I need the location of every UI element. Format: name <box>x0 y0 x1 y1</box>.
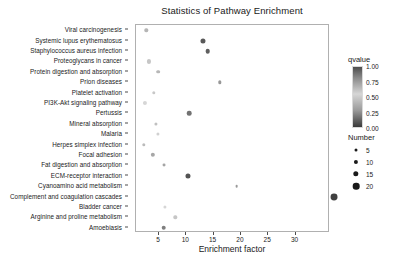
y-axis-tick-mark <box>125 91 128 92</box>
number-legend-dot <box>353 171 358 176</box>
number-legend-label: 20 <box>366 183 373 190</box>
number-legend-row: 15 <box>349 168 395 180</box>
data-point <box>145 28 148 31</box>
x-axis-tick-mark <box>185 232 186 235</box>
data-point <box>218 80 221 83</box>
y-axis-tick-label: Viral carcinogenesis <box>65 26 122 33</box>
y-axis-tick-label: Cyanoamino acid metabolism <box>38 182 122 189</box>
data-point <box>200 38 205 43</box>
number-legend-key <box>349 144 363 156</box>
y-axis-tick-mark <box>125 216 128 217</box>
data-point <box>185 173 190 178</box>
y-axis-tick-mark <box>125 81 128 82</box>
qvalue-colorbar <box>352 66 363 128</box>
x-axis-tick-label: 20 <box>236 236 243 243</box>
y-axis-tick-mark <box>125 29 128 30</box>
data-point <box>174 216 177 219</box>
number-legend-dot <box>354 160 358 164</box>
number-legend-title: Number <box>348 133 375 142</box>
x-axis-tick-mark <box>158 232 159 235</box>
y-axis-tick-mark <box>125 39 128 40</box>
y-axis-tick-mark <box>125 143 128 144</box>
y-axis-tick-mark <box>125 154 128 155</box>
y-axis-tick-label: ECM-receptor interaction <box>51 171 122 178</box>
y-axis-tick-label: Bladder cancer <box>79 203 122 210</box>
qvalue-legend-tick-label: 0.25 <box>366 109 379 116</box>
data-point <box>162 226 167 231</box>
x-axis-tick-label: 25 <box>264 236 271 243</box>
y-axis-tick-label: Protein digestion and absorption <box>30 67 122 74</box>
number-legend-key <box>349 168 363 180</box>
data-point <box>147 59 151 63</box>
y-axis-tick-label: Focal adhesion <box>79 151 122 158</box>
y-axis-tick-label: Malaria <box>101 130 122 137</box>
y-axis-tick-label: Herpes simplex infection <box>52 140 122 147</box>
qvalue-legend-tick-label: 0.75 <box>366 78 379 85</box>
chart-title: Statistics of Pathway Enrichment <box>135 5 329 16</box>
x-axis-title: Enrichment factor <box>135 244 329 254</box>
number-legend-key <box>349 156 363 168</box>
data-point <box>142 143 145 146</box>
number-legend-dot <box>353 183 360 190</box>
y-axis-tick-label: Pertussis <box>96 109 122 116</box>
number-legend-label: 5 <box>366 147 370 154</box>
data-point <box>235 185 238 188</box>
data-point <box>157 70 161 74</box>
number-legend-label: 10 <box>366 159 373 166</box>
x-axis-tick-mark <box>213 232 214 235</box>
number-legend-row: 5 <box>349 144 395 156</box>
number-legend-label: 15 <box>366 171 373 178</box>
qvalue-legend-tick-label: 0.00 <box>366 125 379 132</box>
y-axis-tick-label: Platelet activation <box>72 88 122 95</box>
qvalue-legend-tick-label: 1.00 <box>366 63 379 70</box>
y-axis-tick-mark <box>125 185 128 186</box>
y-axis-tick-label: PI3K-Akt signaling pathway <box>44 99 122 106</box>
y-axis: Viral carcinogenesisSystemic lupus eryth… <box>0 24 130 232</box>
y-axis-tick-mark <box>125 133 128 134</box>
data-point <box>187 111 192 116</box>
x-axis-tick-mark <box>295 232 296 235</box>
data-point <box>155 122 158 125</box>
number-legend-key <box>349 180 363 192</box>
y-axis-tick-label: Complement and coagulation cascades <box>10 192 122 199</box>
y-axis-tick-mark <box>125 164 128 165</box>
data-point <box>151 153 155 157</box>
x-axis-tick-label: 30 <box>291 236 298 243</box>
y-axis-tick-mark <box>125 70 128 71</box>
y-axis-tick-mark <box>125 112 128 113</box>
number-legend-dot <box>355 149 358 152</box>
y-axis-tick-mark <box>125 122 128 123</box>
y-axis-tick-label: Proteoglycans in cancer <box>54 57 122 64</box>
data-point <box>205 49 210 54</box>
data-point <box>152 91 155 94</box>
y-axis-tick-mark <box>125 226 128 227</box>
legend-area: qvalue Number 1.000.750.500.250.00510152… <box>333 55 397 205</box>
data-point <box>163 164 166 167</box>
x-axis-tick-label: 15 <box>209 236 216 243</box>
data-point <box>143 101 147 105</box>
number-legend-row: 10 <box>349 156 395 168</box>
y-axis-tick-label: Fat digestion and absorption <box>41 161 122 168</box>
y-axis-tick-label: Prion diseases <box>80 78 122 85</box>
x-axis-tick-label: 5 <box>156 236 160 243</box>
y-axis-tick-mark <box>125 174 128 175</box>
y-axis-tick-label: Arginine and proline metabolism <box>30 213 122 220</box>
y-axis-tick-label: Amoebiasis <box>89 223 122 230</box>
y-axis-tick-label: Staphylococcus aureus infection <box>30 47 122 54</box>
qvalue-legend-tick-label: 0.50 <box>366 94 379 101</box>
x-axis-tick-mark <box>240 232 241 235</box>
plot-panel <box>135 24 329 232</box>
x-axis-tick-mark <box>267 232 268 235</box>
y-axis-tick-mark <box>125 60 128 61</box>
y-axis-tick-mark <box>125 206 128 207</box>
y-axis-tick-label: Mineral absorption <box>69 119 122 126</box>
y-axis-tick-mark <box>125 102 128 103</box>
data-point <box>163 205 166 208</box>
y-axis-tick-label: Systemic lupus erythematosus <box>35 36 122 43</box>
x-axis-tick-label: 10 <box>182 236 189 243</box>
chart-root: Statistics of Pathway Enrichment Viral c… <box>0 0 397 258</box>
y-axis-tick-mark <box>125 195 128 196</box>
number-legend-row: 20 <box>349 180 395 192</box>
y-axis-tick-mark <box>125 50 128 51</box>
data-point <box>156 133 159 136</box>
